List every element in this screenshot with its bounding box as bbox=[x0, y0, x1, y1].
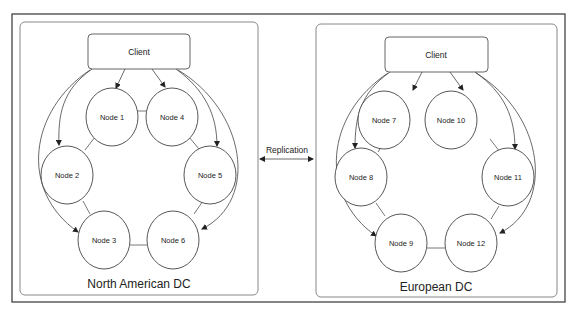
replication-label: Replication bbox=[266, 145, 308, 155]
node-label: Node 5 bbox=[198, 171, 222, 180]
node-2[interactable]: Node 2 bbox=[41, 146, 93, 204]
node-12[interactable]: Node 12 bbox=[445, 214, 497, 272]
node-label: Node 1 bbox=[100, 113, 124, 122]
dc-label: North American DC bbox=[87, 277, 191, 291]
node-label: Node 6 bbox=[161, 236, 185, 245]
node-3[interactable]: Node 3 bbox=[78, 211, 130, 269]
node-5[interactable]: Node 5 bbox=[184, 146, 236, 204]
node-label: Node 7 bbox=[372, 116, 396, 125]
datacenter-europe: Client Node 7 Node 10 Node 8 bbox=[316, 24, 557, 297]
node-11[interactable]: Node 11 bbox=[482, 148, 534, 206]
node-9[interactable]: Node 9 bbox=[375, 214, 427, 272]
node-10[interactable]: Node 10 bbox=[425, 91, 477, 149]
node-label: Node 3 bbox=[92, 236, 116, 245]
node-label: Node 9 bbox=[389, 239, 413, 248]
client-label: Client bbox=[425, 50, 447, 60]
datacenter-north-america: Client Node 1 Node 4 bbox=[20, 22, 258, 295]
replication-link: Replication bbox=[260, 145, 313, 159]
node-6[interactable]: Node 6 bbox=[147, 211, 199, 269]
node-1[interactable]: Node 1 bbox=[86, 88, 138, 146]
node-8[interactable]: Node 8 bbox=[335, 148, 387, 206]
node-label: Node 10 bbox=[437, 116, 465, 125]
node-4[interactable]: Node 4 bbox=[146, 88, 198, 146]
node-label: Node 8 bbox=[349, 173, 373, 182]
node-label: Node 4 bbox=[160, 113, 184, 122]
node-label: Node 12 bbox=[457, 239, 485, 248]
diagram-canvas: Client Node 1 Node 4 bbox=[0, 0, 575, 318]
node-label: Node 11 bbox=[494, 173, 522, 182]
node-7[interactable]: Node 7 bbox=[358, 91, 410, 149]
node-label: Node 2 bbox=[55, 171, 79, 180]
dc-label: European DC bbox=[400, 280, 473, 294]
client-label: Client bbox=[128, 47, 150, 57]
